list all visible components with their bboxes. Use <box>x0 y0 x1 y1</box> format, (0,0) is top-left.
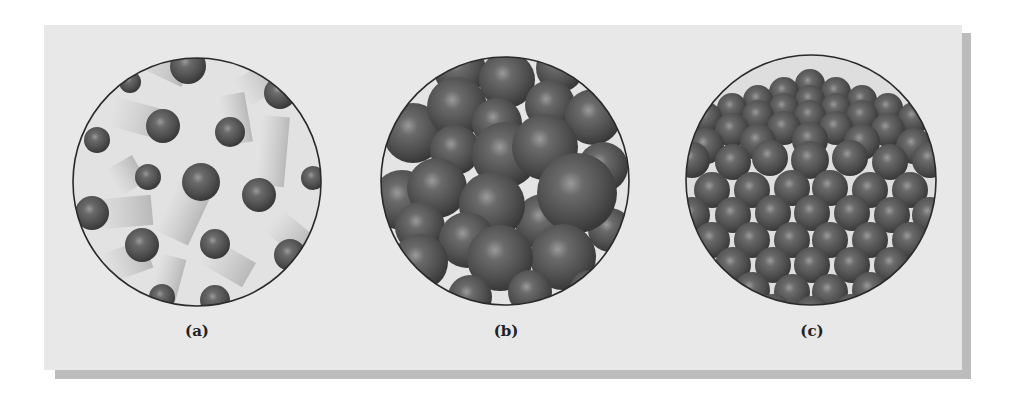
solid-circle <box>674 55 948 332</box>
label-liquid: (b) <box>476 322 536 340</box>
gas-circle <box>73 34 325 315</box>
liquid-circle <box>372 44 632 320</box>
label-solid: (c) <box>782 322 842 340</box>
label-gas: (a) <box>167 322 227 340</box>
liquid-particles <box>372 44 632 320</box>
